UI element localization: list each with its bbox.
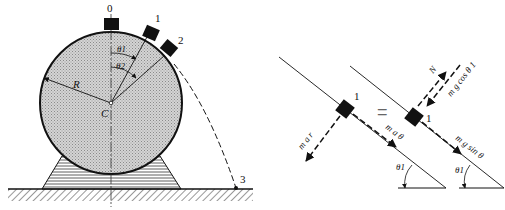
theta1-arc-kinetic	[405, 165, 412, 188]
theta1-kinetic-label: θ1	[396, 162, 405, 172]
incline-line-fbd	[350, 66, 504, 188]
ma-r-label: m a r	[296, 130, 316, 152]
trajectory-path	[174, 64, 236, 188]
block-1-kinetic	[335, 99, 355, 119]
position-1-label: 1	[155, 12, 161, 24]
block-1-kinetic-label: 1	[354, 90, 360, 102]
mg-cos-label: m g cos θ 1	[445, 60, 478, 98]
mg-sin-label: m g sin θ	[454, 133, 486, 161]
theta1-arc-fbd	[464, 165, 470, 188]
block-1-fbd-label: 1	[426, 112, 432, 124]
right-panel: 1 m a r m a θ θ1 = 1 N m g cos θ 1 m g s…	[279, 57, 504, 188]
block-0	[104, 18, 119, 30]
theta2-label: θ2	[116, 61, 125, 71]
theta1-fbd-label: θ1	[455, 165, 464, 175]
position-2-label: 2	[178, 34, 184, 46]
landing-point	[234, 186, 238, 190]
ma-theta-label: m a θ	[384, 122, 406, 143]
left-panel: R C θ1 θ2 0 1 2 3	[8, 2, 253, 207]
radius-label: R	[72, 78, 80, 90]
block-1-fbd	[404, 107, 424, 127]
normal-force-label: N	[426, 63, 439, 76]
equals-sign: =	[377, 102, 388, 122]
position-0-label: 0	[107, 2, 113, 14]
free-body-diagram: 1 N m g cos θ 1 m g sin θ θ1	[350, 60, 504, 188]
ground-hatching	[8, 189, 253, 201]
diagram-canvas: R C θ1 θ2 0 1 2 3 1 m a r	[0, 0, 505, 210]
center-label: C	[101, 107, 109, 119]
position-3-label: 3	[240, 173, 246, 185]
block-1	[142, 25, 160, 42]
theta1-label: θ1	[117, 44, 126, 54]
center-point	[109, 101, 113, 105]
